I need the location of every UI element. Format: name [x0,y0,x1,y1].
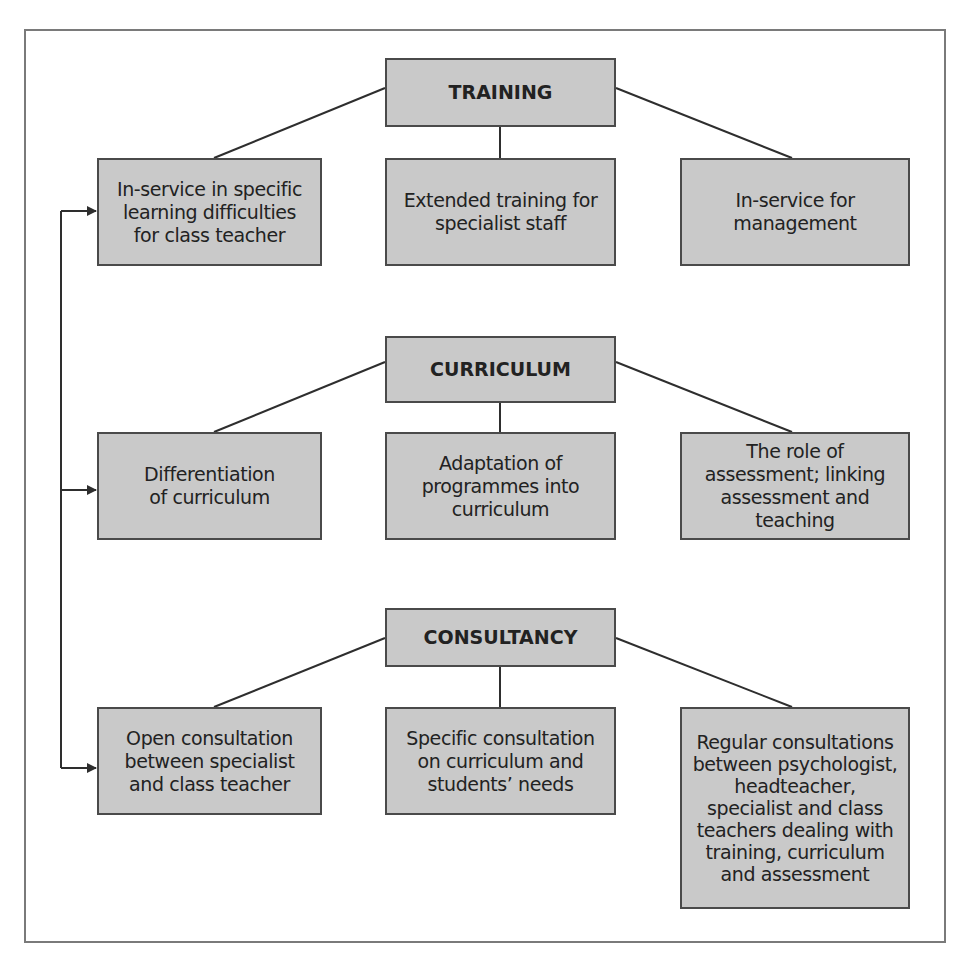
node-label: Specific consultation on curriculum and … [406,727,594,796]
node-label: Open consultation between specialist and… [125,727,295,796]
curriculum-node-differentiation: Differentiation of curriculum [97,432,322,540]
training-node-extended-training: Extended training for specialist staff [385,158,616,266]
training-header-box: TRAINING [385,58,616,127]
training-header-label: TRAINING [449,81,553,104]
consultancy-node-open-consultation: Open consultation between specialist and… [97,707,322,815]
node-label: In-service in specific learning difficul… [117,178,302,247]
consultancy-header-label: CONSULTANCY [424,626,578,649]
curriculum-node-adaptation: Adaptation of programmes into curriculum [385,432,616,540]
node-label: Differentiation of curriculum [144,463,275,509]
training-node-inservice-class-teacher: In-service in specific learning difficul… [97,158,322,266]
node-label: In-service for management [733,189,856,235]
node-label: Adaptation of programmes into curriculum [422,452,580,521]
node-label: Regular consultations between psychologi… [693,731,898,885]
training-node-inservice-management: In-service for management [680,158,910,266]
curriculum-header-box: CURRICULUM [385,336,616,403]
consultancy-node-specific-consultation: Specific consultation on curriculum and … [385,707,616,815]
node-label: Extended training for specialist staff [404,189,598,235]
curriculum-node-assessment: The role of assessment; linking assessme… [680,432,910,540]
consultancy-node-regular-consultations: Regular consultations between psychologi… [680,707,910,909]
node-label: The role of assessment; linking assessme… [705,440,885,532]
consultancy-header-box: CONSULTANCY [385,608,616,667]
curriculum-header-label: CURRICULUM [430,358,571,381]
